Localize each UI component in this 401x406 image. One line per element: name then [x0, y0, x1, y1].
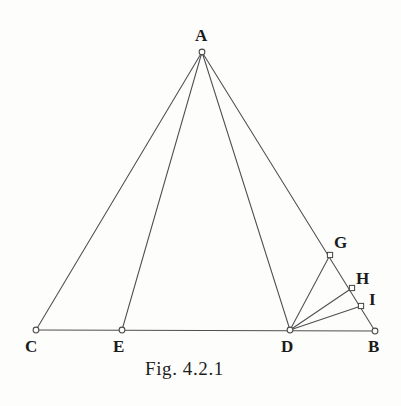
vertex-marker-I [358, 303, 363, 308]
vertex-marker-H [349, 285, 354, 290]
vertex-label-C: C [25, 338, 37, 355]
segment-A-E [122, 52, 202, 330]
segments-group [36, 52, 375, 331]
geometry-figure: A B C D E G H I Fig. 4.2.1 [0, 0, 401, 406]
vertex-label-G: G [334, 234, 347, 251]
nodes-group [33, 49, 378, 334]
segment-A-C [36, 52, 202, 330]
vertex-marker-B [372, 328, 378, 334]
geometry-canvas [0, 0, 401, 406]
vertex-marker-C [33, 327, 39, 333]
vertex-marker-E [119, 327, 125, 333]
figure-caption: Fig. 4.2.1 [145, 358, 224, 380]
vertex-marker-D [287, 327, 293, 333]
segment-D-H [290, 288, 352, 330]
vertex-label-E: E [113, 338, 125, 355]
vertex-label-I: I [369, 291, 376, 308]
vertex-label-A: A [195, 27, 207, 44]
vertex-marker-A [199, 49, 205, 55]
vertex-label-H: H [356, 270, 369, 287]
vertex-label-B: B [368, 338, 380, 355]
vertex-label-D: D [281, 338, 293, 355]
segment-A-D [202, 52, 290, 330]
vertex-marker-G [327, 252, 332, 257]
segment-C-B [36, 330, 375, 331]
